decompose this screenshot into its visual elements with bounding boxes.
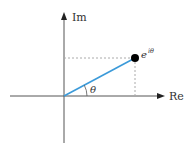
point-label-exponent: iθ <box>148 47 154 55</box>
real-axis-arrowhead-icon <box>157 93 165 99</box>
angle-arc <box>84 85 87 96</box>
imaginary-axis-arrowhead-icon <box>61 12 67 20</box>
unit-vector <box>64 58 135 96</box>
complex-plane-diagram: Im Re θ e iθ <box>0 0 194 150</box>
imaginary-axis-label: Im <box>72 11 87 24</box>
point-label-base: e <box>141 49 147 60</box>
angle-label: θ <box>90 84 96 95</box>
point-marker <box>131 54 139 62</box>
real-axis-label: Re <box>169 90 184 103</box>
